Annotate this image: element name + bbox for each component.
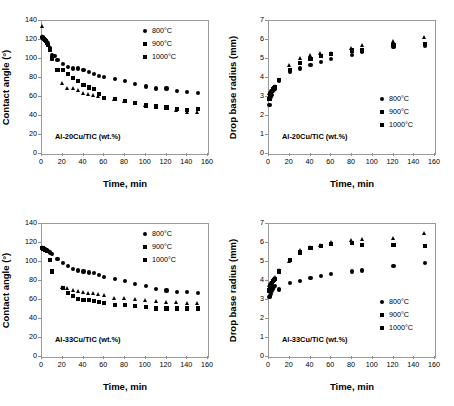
x-tick-label: 160 [196,158,218,166]
y-axis-title: Contact angle (°) [0,223,14,358]
triangle-marker-icon [140,52,149,61]
data-point-square [50,269,54,273]
data-point-square [81,83,85,87]
y-tick-label: 0 [240,352,264,360]
x-tick-label: 100 [134,158,156,166]
data-point-triangle [45,248,49,252]
x-axis-title: Time, min [41,381,209,392]
y-tick-label: 2 [240,314,264,322]
data-point-circle [308,276,312,280]
data-point-circle [196,91,200,95]
legend-item-800c: 800°C [140,227,176,240]
data-point-triangle [96,292,100,296]
data-point-triangle [308,53,312,57]
data-point-circle [66,264,70,268]
x-tick-label: 0 [257,361,279,369]
x-tick-mark [434,356,435,359]
y-tick-mark [38,96,41,97]
x-axis-title: Time, min [41,178,209,189]
data-point-triangle [71,288,75,292]
data-point-circle [391,264,395,268]
data-point-triangle [143,103,147,107]
y-tick-mark [38,115,41,116]
data-point-circle [185,90,189,94]
x-tick-label: 60 [319,158,341,166]
x-tick-mark [372,356,373,359]
x-tick-mark [289,356,290,359]
legend-label: 800°C [389,94,409,103]
data-point-circle [71,267,75,271]
y-tick-mark [38,20,41,21]
x-tick-label: 140 [175,361,197,369]
x-tick-mark [413,153,414,156]
data-point-triangle [287,63,291,67]
legend-item-900c: 900°C [377,308,413,321]
circle-marker-icon [140,26,149,35]
x-tick-mark [207,356,208,359]
data-point-triangle [81,91,85,95]
y-tick-label: 20 [13,130,37,138]
data-point-square [66,291,70,295]
data-point-triangle [86,92,90,96]
x-tick-label: 40 [72,361,94,369]
data-point-circle [350,53,354,57]
x-tick-mark [351,153,352,156]
data-point-circle [144,84,148,88]
y-tick-mark [265,261,268,262]
data-point-triangle [76,88,80,92]
y-tick-label: 2 [240,111,264,119]
y-tick-label: 40 [13,314,37,322]
data-point-circle [175,290,179,294]
data-point-triangle [185,110,189,114]
data-point-circle [81,269,85,273]
y-tick-mark [38,77,41,78]
y-tick-label: 60 [13,295,37,303]
data-point-circle [102,275,106,279]
data-point-circle [196,291,200,295]
x-tick-mark [207,153,208,156]
y-tick-label: 0 [13,149,37,157]
x-tick-label: 140 [402,361,424,369]
data-point-triangle [50,57,54,61]
x-tick-label: 100 [361,361,383,369]
legend-item-1000c: 1000°C [140,253,176,266]
x-tick-label: 120 [382,158,404,166]
panel-annotation: Al-20Cu/TiC (wt.%) [55,132,121,141]
legend: 800°C 900°C 1000°C [140,24,176,63]
legend-label: 800°C [152,229,172,238]
triangle-marker-icon [140,255,149,264]
y-tick-mark [265,134,268,135]
data-point-square [360,243,364,247]
data-point-triangle [96,94,100,98]
panel-bottom-right: Drop base radius (mm) Time, min Al-33Cu/… [227,203,454,406]
y-tick-label: 100 [13,257,37,265]
panel-annotation: Al-33Cu/TiC (wt.%) [282,335,348,344]
data-point-triangle [273,84,277,88]
data-point-circle [61,261,65,265]
legend-item-900c: 900°C [140,240,176,253]
y-tick-mark [265,58,268,59]
data-point-triangle [86,291,90,295]
x-tick-label: 100 [134,361,156,369]
y-tick-label: 120 [13,35,37,43]
x-tick-mark [145,356,146,359]
x-tick-label: 80 [113,361,135,369]
x-tick-mark [351,356,352,359]
data-point-triangle [154,299,158,303]
data-point-square [423,244,427,248]
y-tick-label: 0 [13,352,37,360]
y-tick-mark [265,39,268,40]
x-tick-label: 0 [257,158,279,166]
data-point-circle [61,62,65,66]
x-tick-mark [330,356,331,359]
y-tick-label: 1 [240,333,264,341]
data-point-triangle [277,78,281,82]
data-point-triangle [71,86,75,90]
x-tick-mark [41,356,42,359]
data-point-triangle [185,301,189,305]
data-point-circle [164,86,168,90]
y-tick-label: 5 [240,54,264,62]
panel-bottom-left: Contact angle (°) Time, min Al-33Cu/TiC … [0,203,227,406]
data-point-circle [308,63,312,67]
data-point-triangle [195,110,199,114]
